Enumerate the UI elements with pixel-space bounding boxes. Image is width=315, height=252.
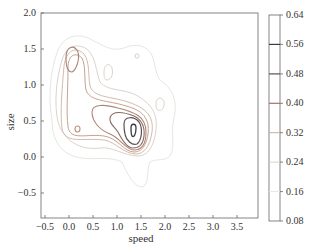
cbar-tick-0.40: 0.40 <box>286 97 304 108</box>
colorbar-tick-labels: 0.64 0.56 0.48 0.40 0.32 0.24 0.16 0.08 <box>286 9 304 226</box>
x-tick-0.5: 0.5 <box>87 221 100 232</box>
cbar-tick-0.48: 0.48 <box>286 68 304 79</box>
x-tick-2.0: 2.0 <box>159 221 172 232</box>
x-tick-1.5: 1.5 <box>135 221 148 232</box>
y-tick-0.0: 0.0 <box>24 151 37 162</box>
y-tick-2.0: 2.0 <box>24 7 37 18</box>
cbar-tick-0.56: 0.56 <box>286 38 304 49</box>
cbar-tick-0.24: 0.24 <box>286 156 304 167</box>
y-axis-label: size <box>4 113 16 130</box>
cbar-tick-0.08: 0.08 <box>286 215 304 226</box>
x-tick-3.5: 3.5 <box>231 221 244 232</box>
contour-chart: 2.0 1.5 1.0 0.5 0.0 −0.5 size −0.5 0.0 0… <box>0 0 315 252</box>
y-tick-1.5: 1.5 <box>24 43 37 54</box>
x-tick-2.5: 2.5 <box>183 221 196 232</box>
y-tick-1.0: 1.0 <box>24 79 37 90</box>
cbar-tick-0.32: 0.32 <box>286 127 304 138</box>
y-tick-0.5: 0.5 <box>24 115 37 126</box>
x-tick-neg0.5: −0.5 <box>36 221 54 232</box>
x-tick-3.0: 3.0 <box>207 221 220 232</box>
x-tick-1.0: 1.0 <box>111 221 124 232</box>
colorbar-ticks <box>280 15 283 221</box>
y-tick-neg0.5: −0.5 <box>18 187 36 198</box>
x-axis-label: speed <box>128 232 154 244</box>
cbar-tick-0.16: 0.16 <box>286 186 304 197</box>
colorbar-frame <box>269 15 280 221</box>
x-axis-tick-labels: −0.5 0.0 0.5 1.0 1.5 2.0 2.5 3.0 3.5 <box>36 221 243 232</box>
colorbar: 0.64 0.56 0.48 0.40 0.32 0.24 0.16 0.08 <box>269 9 304 226</box>
x-tick-0.0: 0.0 <box>63 221 76 232</box>
cbar-tick-0.64: 0.64 <box>286 9 304 20</box>
y-axis-tick-labels: 2.0 1.5 1.0 0.5 0.0 −0.5 <box>18 7 36 198</box>
